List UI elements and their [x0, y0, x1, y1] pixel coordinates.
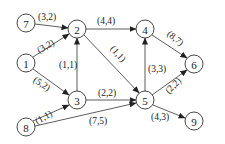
node-label: 7	[23, 18, 29, 30]
edge-label-3-5: (2,2)	[98, 88, 116, 99]
node-1: 1	[17, 54, 35, 72]
edge-2-5	[84, 35, 139, 93]
node-label: 3	[74, 95, 80, 107]
node-8: 8	[17, 118, 35, 136]
edge-label-2-5: (1,1)	[107, 44, 127, 65]
node-label: 9	[191, 116, 197, 128]
edge-label-5-6: (2,2)	[163, 76, 184, 97]
node-label: 6	[191, 59, 197, 71]
edge-7-2	[35, 24, 68, 28]
edge-label-1-2: (3,2)	[35, 37, 56, 56]
edge-label-2-4: (4,4)	[97, 16, 115, 27]
node-5: 5	[136, 91, 154, 109]
node-7: 7	[17, 14, 35, 32]
node-label: 2	[74, 24, 80, 36]
node-6: 6	[185, 55, 203, 73]
edge-label-3-2: (1,1)	[59, 60, 77, 71]
edge-label-5-4: (3,3)	[148, 64, 166, 75]
node-label: 5	[142, 95, 148, 107]
graph-canvas: (3,2) (3,2) (5,2) (1,1) (4,4) (1,1) (3,3…	[0, 0, 225, 144]
node-label: 4	[142, 24, 148, 36]
node-9: 9	[185, 112, 203, 130]
node-label: 8	[23, 122, 29, 134]
node-3: 3	[68, 91, 86, 109]
edge-label-7-2: (3,2)	[38, 12, 56, 23]
edge-label-1-3: (5,2)	[31, 75, 52, 94]
node-2: 2	[68, 20, 86, 38]
edges	[33, 24, 187, 126]
edge-label-8-5: (7,5)	[89, 116, 107, 127]
node-4: 4	[136, 20, 154, 38]
node-label: 1	[23, 58, 29, 70]
edge-label-5-9: (4,3)	[151, 112, 169, 123]
